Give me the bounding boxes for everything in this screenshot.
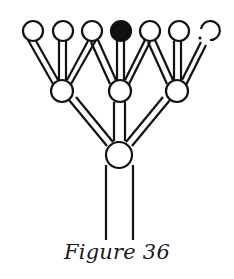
broken-node-dot (198, 36, 201, 39)
top-node-1 (23, 21, 43, 41)
figure-caption: Figure 36 (0, 240, 234, 264)
ground-left (22, 165, 106, 240)
m1-branches (28, 40, 96, 84)
root-branches (69, 97, 170, 146)
root-node (106, 142, 132, 168)
ground-right (133, 165, 216, 240)
top-node-5 (140, 21, 160, 41)
top-node-3 (82, 21, 102, 41)
tree-diagram (0, 0, 234, 240)
middle-node-1 (51, 80, 73, 102)
top-node-6 (169, 21, 189, 41)
m2-branches (91, 40, 150, 84)
top-node-2 (53, 21, 73, 41)
middle-node-2 (109, 80, 131, 102)
middle-node-3 (166, 80, 188, 102)
top-node-7-broken (201, 21, 220, 40)
top-node-4-filled (111, 21, 131, 41)
m3-branches (148, 40, 206, 85)
